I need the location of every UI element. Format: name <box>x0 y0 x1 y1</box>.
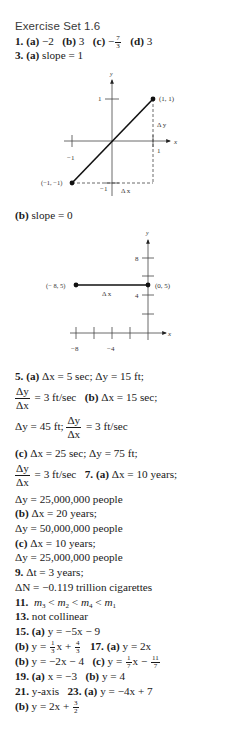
part-label: (a) <box>96 468 109 480</box>
answer: y = 2x + <box>31 700 69 712</box>
answer: y = <box>31 640 46 652</box>
x-axis-label: x <box>173 138 178 146</box>
answer: y = 4 <box>102 670 125 682</box>
answer: y = 2x <box>123 640 152 652</box>
exercise-number: 1. <box>15 35 23 47</box>
part-label: (a) <box>84 685 97 697</box>
answer: Δx = 5 sec; Δy = 15 ft; <box>42 370 144 382</box>
denominator: 2 <box>73 708 79 715</box>
delta-x-label: Δ x <box>121 187 131 195</box>
tick-label: −4 <box>107 345 115 353</box>
answer: Δy = 45 ft; <box>15 420 64 432</box>
exercise-7c: (c) Δx = 10 years; <box>15 536 96 550</box>
part-label: (c) <box>92 655 104 667</box>
part-label: (a) <box>26 49 39 61</box>
exercise-7c-dy: Δy = 25,000,000 people <box>15 550 123 564</box>
exercise-19: 19. (a) x = −3 (b) y = 4 <box>15 669 125 683</box>
answer-sign: − <box>108 35 114 47</box>
part-label: (a) <box>26 35 39 47</box>
answer: y = <box>108 655 123 667</box>
exercise-9: 9. Δt = 3 years; <box>15 565 84 579</box>
exercise-15b: (b) y = 13x + 43 17. (a) y = 2x <box>15 639 151 655</box>
fraction: ΔyΔx <box>15 385 30 412</box>
graph-slope-one: y x 1 −1 1 −1 (1, 1) (−1, −1) Δ y Δ x <box>0 66 225 206</box>
denominator: 7 <box>126 663 132 670</box>
answer: y = −4x + 7 <box>100 685 153 697</box>
part-label: (c) <box>15 537 27 549</box>
delta-y-label: Δ y <box>157 121 167 129</box>
exercise-number: 23. <box>68 685 82 697</box>
fraction: 117 <box>151 655 160 670</box>
answer: Δx = 10 years; <box>112 468 177 480</box>
answer: −2 <box>42 35 54 47</box>
answer: 3 <box>147 35 153 47</box>
exercise-number: 11. <box>15 596 28 608</box>
exercise-3a: 3. (a) slope = 1 <box>15 48 83 62</box>
tick-label: −1 <box>67 154 75 162</box>
answer: y-axis <box>32 685 59 697</box>
part-label: (c) <box>93 35 105 47</box>
point-neg8-5 <box>74 283 79 288</box>
exercise-number: 15. <box>15 625 29 637</box>
answer: 3 <box>79 35 85 47</box>
part-label: (a) <box>107 640 120 652</box>
exercise-set-title: Exercise Set 1.6 <box>15 20 100 32</box>
tick-label: −1 <box>100 185 108 193</box>
answer: Δx = 10 years; <box>30 537 95 549</box>
exercise-number: 5. <box>15 370 23 382</box>
point-label: (− 8, 5) <box>46 282 65 290</box>
point-neg1-neg1 <box>70 181 75 186</box>
part-label: (c) <box>15 447 27 459</box>
exercise-number: 21. <box>15 685 29 697</box>
exercise-number: 17. <box>90 640 104 652</box>
part-label: (a) <box>32 670 45 682</box>
answer: Δx = 15 sec; <box>101 391 157 403</box>
exercise-21-23: 21. y-axis 23. (a) y = −4x + 7 <box>15 684 153 698</box>
tick-label: 1 <box>98 95 102 103</box>
exercise-number: 19. <box>15 670 29 682</box>
exercise-15a: 15. (a) y = −5x − 9 <box>15 624 100 638</box>
answer: Δx = 25 sec; Δy = 75 ft; <box>30 447 137 459</box>
tick-label: −8 <box>71 345 79 353</box>
fraction: 32 <box>73 700 79 715</box>
exercise-13: 13. not collinear <box>15 609 88 623</box>
fraction: ΔyΔx <box>15 462 30 489</box>
point-0-5 <box>146 283 151 288</box>
exercise-7b: (b) Δx = 20 years; <box>15 506 97 520</box>
y-axis-label: y <box>145 230 149 236</box>
point-label: (−1, −1) <box>41 179 62 187</box>
exercise-number: 3. <box>15 49 23 61</box>
answer: = 3 ft/sec <box>86 420 128 432</box>
fraction: 17 <box>126 655 132 670</box>
part-label: (a) <box>32 625 45 637</box>
answer: = 3 ft/sec <box>35 468 77 480</box>
denominator: Δx <box>15 399 30 412</box>
point-1-1 <box>151 97 156 102</box>
answer: y = −2x − 4 <box>31 655 84 667</box>
answer: x = −3 <box>48 670 77 682</box>
part-label: (b) <box>85 670 99 682</box>
exercise-number: 13. <box>15 610 29 622</box>
exercise-5b-rate: Δy = 45 ft; ΔyΔx = 3 ft/sec <box>15 414 128 441</box>
exercise-7b-dy: Δy = 50,000,000 people <box>15 521 123 535</box>
part-label: (d) <box>130 35 144 47</box>
denominator: 3 <box>115 43 121 50</box>
exercise-5a: 5. (a) Δx = 5 sec; Δy = 15 ft; <box>15 369 144 383</box>
part-label: (b) <box>15 209 29 221</box>
part-label: (b) <box>15 655 29 667</box>
part-label: (b) <box>15 700 29 712</box>
exercise-number: 9. <box>15 566 23 578</box>
point-label: (1, 1) <box>159 95 175 103</box>
answer: slope = 1 <box>42 49 83 61</box>
denominator: Δx <box>66 428 81 441</box>
tick-label: 8 <box>135 255 139 263</box>
tick-label: 1 <box>157 147 161 155</box>
denominator: Δx <box>15 476 30 489</box>
answer: Δx = 20 years; <box>31 507 96 519</box>
fraction: ΔyΔx <box>66 414 81 441</box>
exercise-number: 7. <box>85 468 93 480</box>
exercise-3b: (b) slope = 0 <box>15 208 73 222</box>
answer: = 3 ft/sec <box>35 391 77 403</box>
part-label: (b) <box>62 35 76 47</box>
y-axis-label: y <box>109 71 113 77</box>
